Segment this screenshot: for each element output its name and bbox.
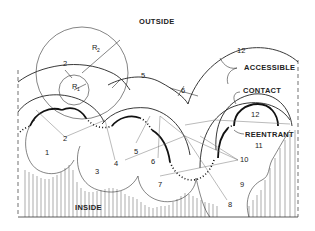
contact-leader [234, 92, 240, 104]
outside-label: OUTSIDE [139, 17, 174, 26]
atom-label-7: 7 [158, 180, 162, 189]
atom-label-3: 3 [95, 167, 99, 176]
atom-label-5: 5 [134, 147, 138, 156]
atom-label-1: 1 [45, 148, 49, 157]
atom-9 [247, 160, 272, 217]
accessible-surface-mid [108, 77, 188, 104]
atom-label-4: 4 [114, 159, 118, 168]
contact-surface-4 [112, 116, 140, 126]
atom-label-6: 6 [151, 157, 155, 166]
reentrant-surface-d [228, 126, 234, 128]
accessible-surface-right [188, 48, 298, 104]
probe-label-2: 2 [63, 59, 67, 68]
atom-label-8: 8 [228, 200, 232, 209]
r1-subscript: 1 [77, 86, 80, 92]
molecular-surface-diagram: OUTSIDE INSIDE ACCESSIBLE CONTACT REENTR… [0, 0, 315, 231]
atom-label-11: 11 [255, 141, 263, 150]
reentrant-label: REENTRANT [245, 130, 294, 139]
accessible-label: ACCESSIBLE [244, 63, 295, 72]
inside-label: INSIDE [75, 203, 102, 212]
atom-8 [196, 178, 210, 217]
contact-surface-1 [30, 109, 62, 126]
reentrant-leader [234, 130, 244, 134]
contact-label: CONTACT [243, 86, 281, 95]
atom-1 [26, 120, 74, 174]
atom-label-2: 2 [63, 134, 67, 143]
probe-label-12-outer: 12 [237, 46, 245, 55]
shell-arc-5 [102, 108, 190, 155]
probe-label-6: 6 [181, 86, 185, 95]
atom-label-10: 10 [240, 155, 248, 164]
atom-label-9: 9 [240, 180, 244, 189]
probe-ticks [65, 70, 198, 96]
center-rays [36, 110, 290, 200]
probe-label-5: 5 [141, 71, 145, 80]
probe-label-12-inner: 12 [251, 110, 259, 119]
atom-3 [77, 146, 138, 192]
contact-surface-10 [218, 128, 228, 158]
accessible-leader [220, 58, 237, 84]
atom-7 [138, 176, 196, 202]
r2-subscript: 2 [97, 47, 100, 53]
contact-surface-2 [62, 108, 86, 118]
